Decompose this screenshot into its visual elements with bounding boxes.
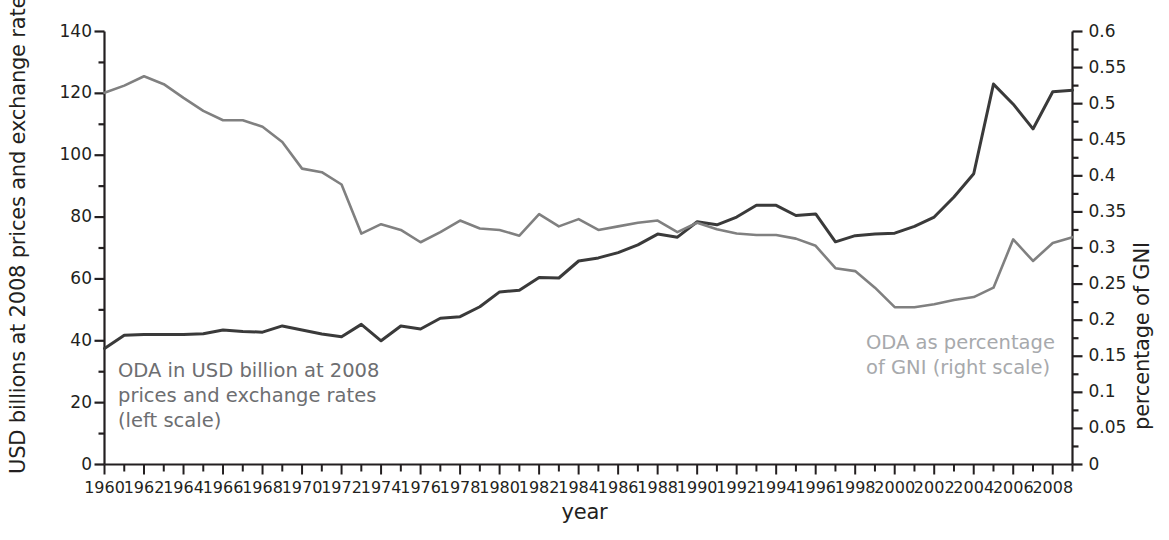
y-right-tick-label-0: 0 [1089, 454, 1159, 474]
y-right-tick-label-0.15: 0.15 [1089, 345, 1159, 365]
x-tick-label-2008: 2008 [1023, 478, 1083, 497]
chart-container: USD billions at 2008 prices and exchange… [0, 0, 1169, 540]
y-left-tick-label-120: 120 [20, 82, 92, 102]
axis-ticks [95, 32, 1083, 475]
series-line-oda-gni [105, 76, 1073, 307]
y-right-tick-label-0.55: 0.55 [1089, 57, 1159, 77]
y-right-tick-label-0.5: 0.5 [1089, 93, 1159, 113]
y-left-tick-label-80: 80 [20, 206, 92, 226]
y-right-tick-label-0.1: 0.1 [1089, 381, 1159, 401]
y-left-tick-label-60: 60 [20, 268, 92, 288]
y-left-tick-label-0: 0 [20, 454, 92, 474]
y-right-tick-label-0.6: 0.6 [1089, 21, 1159, 41]
y-right-tick-label-0.05: 0.05 [1089, 417, 1159, 437]
data-lines [105, 76, 1073, 348]
y-left-tick-label-100: 100 [20, 144, 92, 164]
y-right-tick-label-0.3: 0.3 [1089, 237, 1159, 257]
axis-lines [105, 32, 1073, 465]
y-right-tick-label-0.45: 0.45 [1089, 129, 1159, 149]
y-left-tick-label-20: 20 [20, 392, 92, 412]
y-left-tick-label-140: 140 [20, 21, 92, 41]
y-right-tick-label-0.25: 0.25 [1089, 273, 1159, 293]
y-left-tick-label-40: 40 [20, 330, 92, 350]
y-right-tick-label-0.4: 0.4 [1089, 165, 1159, 185]
y-right-tick-label-0.35: 0.35 [1089, 201, 1159, 221]
plot-area [0, 0, 1169, 540]
y-right-tick-label-0.2: 0.2 [1089, 309, 1159, 329]
